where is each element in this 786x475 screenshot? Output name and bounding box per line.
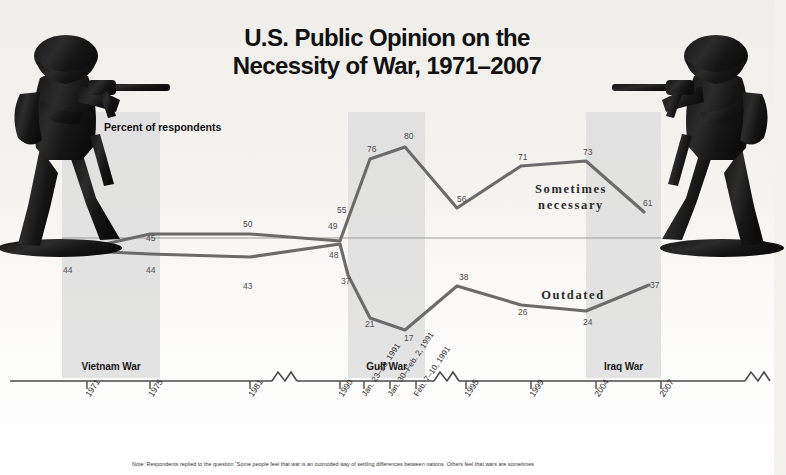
toy-soldier-right bbox=[596, 8, 786, 262]
toy-soldier-left-figure bbox=[0, 8, 186, 258]
value-label: 43 bbox=[243, 281, 252, 291]
axis-break-3-icon bbox=[745, 372, 770, 381]
value-label: 37 bbox=[650, 280, 659, 290]
value-label: 26 bbox=[518, 307, 527, 317]
value-label: 38 bbox=[459, 272, 468, 282]
value-label: 21 bbox=[365, 319, 374, 329]
value-label: 24 bbox=[583, 317, 592, 327]
value-label: 50 bbox=[243, 219, 252, 229]
value-label: 76 bbox=[367, 144, 376, 154]
value-label: 56 bbox=[457, 194, 466, 204]
footnote: Note: Respondents replied to the questio… bbox=[132, 461, 652, 469]
value-label: 73 bbox=[583, 147, 592, 157]
axis-break-2-icon bbox=[434, 372, 459, 381]
toy-soldier-right-figure bbox=[596, 8, 786, 258]
value-label: 49 bbox=[328, 221, 337, 231]
axis-break-1-icon bbox=[272, 372, 297, 381]
value-label: 55 bbox=[337, 205, 346, 215]
value-label: 44 bbox=[63, 265, 72, 275]
value-label: 71 bbox=[518, 152, 527, 162]
value-label: 17 bbox=[404, 333, 413, 343]
value-label: 48 bbox=[329, 250, 338, 260]
value-label: 37 bbox=[341, 276, 350, 286]
value-label: 80 bbox=[404, 131, 413, 141]
toy-soldier-left bbox=[0, 8, 186, 262]
series-label-outdated: Outdated bbox=[518, 288, 628, 304]
value-label: 44 bbox=[146, 265, 155, 275]
